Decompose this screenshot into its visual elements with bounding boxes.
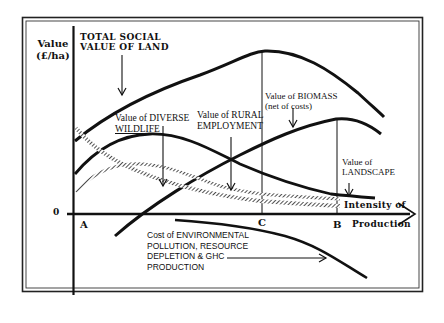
zero-label: 0 [53, 207, 59, 217]
diverse-wildlife-label-line1: Value of DIVERSE [115, 113, 189, 124]
rural-employment-label-line1: Value of RURAL [197, 110, 264, 121]
x-axis-label-line2: Production [352, 219, 411, 229]
point-a-label: A [80, 219, 88, 231]
landscape-label-line1: Value of [342, 157, 395, 167]
y-axis-label: Value (£/ha) [36, 38, 70, 61]
landscape-label: Value of LANDSCAPE [342, 157, 395, 178]
environmental-cost-label-line2: POLLUTION, RESOURCE [147, 241, 249, 252]
rural-employment-label: Value of RURAL EMPLOYMENT [197, 110, 264, 132]
environmental-cost-label-line4: PRODUCTION [147, 262, 249, 273]
environmental-cost-label-line1: Cost of ENVIRONMENTAL [147, 230, 249, 241]
biomass-label-line1: Value of BIOMASS [265, 91, 338, 101]
diverse-wildlife-label: Value of DIVERSE WILDLIFE [115, 113, 189, 135]
total-social-value-label: TOTAL SOCIAL VALUE OF LAND [80, 32, 169, 53]
land-value-diagram: Value (£/ha) 0 TOTAL SOCIAL VALUE OF LAN… [0, 0, 444, 323]
rural-employment-label-line2: EMPLOYMENT [197, 121, 264, 132]
environmental-cost-label: Cost of ENVIRONMENTAL POLLUTION, RESOURC… [147, 230, 249, 273]
x-axis-label-line1: Intensity of [344, 200, 406, 210]
total-social-value-label-line1: TOTAL SOCIAL [80, 32, 169, 42]
landscape-label-line2: LANDSCAPE [342, 167, 395, 177]
environmental-cost-label-line3: DEPLETION & GHC [147, 251, 249, 262]
point-b-label: B [333, 219, 341, 231]
biomass-label: Value of BIOMASS (net of costs) [265, 91, 338, 112]
y-axis-label-line1: Value [36, 38, 70, 50]
biomass-label-line2: (net of costs) [265, 101, 338, 111]
total-social-value-label-line2: VALUE OF LAND [80, 42, 169, 52]
point-c-label: C [258, 217, 266, 229]
diverse-wildlife-label-line2: WILDLIFE [115, 124, 189, 135]
y-axis-label-line2: (£/ha) [36, 50, 70, 62]
